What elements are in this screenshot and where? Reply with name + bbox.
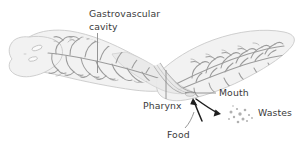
eyespot-dot — [23, 53, 26, 55]
diagram-canvas: Gastrovascular cavity Pharynx Mouth Food… — [0, 0, 300, 148]
waste-particles — [228, 105, 253, 123]
leader-food — [185, 112, 194, 128]
label-wastes: Wastes — [258, 107, 292, 118]
label-pharynx: Pharynx — [143, 100, 182, 111]
flatworm-digestion-figure: Gastrovascular cavity Pharynx Mouth Food… — [0, 0, 300, 148]
flatworm-body — [9, 30, 294, 103]
label-gastrovascular-line1: Gastrovascular — [89, 8, 160, 19]
label-food: Food — [167, 129, 190, 140]
label-gastrovascular-line2: cavity — [89, 21, 118, 32]
label-mouth: Mouth — [219, 87, 249, 98]
flow-arrows — [190, 98, 221, 121]
